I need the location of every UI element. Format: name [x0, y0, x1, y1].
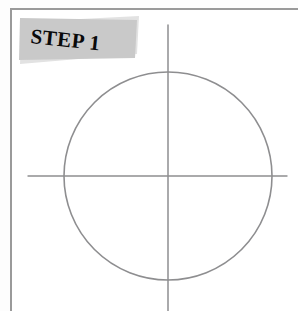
- step-illustration-page: STEP 1: [0, 0, 298, 311]
